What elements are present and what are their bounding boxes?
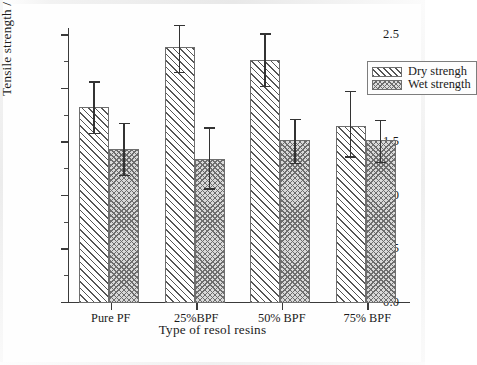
x-tick-label-pure-pf: Pure PF (66, 311, 156, 326)
error-bar-cap-dry-0-lower (89, 133, 100, 134)
y-axis-line (68, 28, 69, 303)
x-tick-major (111, 303, 112, 310)
y-tick-major (61, 302, 68, 303)
error-bar-line-dry-1 (179, 25, 180, 72)
y-tick-minor (64, 222, 68, 223)
error-bar-cap-wet-0-upper (119, 123, 130, 124)
error-bar-line-wet-1 (209, 128, 210, 189)
error-bar-cap-dry-2-lower (260, 86, 271, 87)
error-bar-cap-dry-3-lower (345, 156, 356, 157)
plot-area: 0.00.51.01.52.02.5 Pure PF25%BPF50% BPF7… (68, 28, 410, 303)
y-tick-minor (64, 275, 68, 276)
error-bar-cap-dry-1-lower (174, 72, 185, 73)
x-tick-major (196, 303, 197, 310)
y-tick-minor (64, 115, 68, 116)
bar-wet-3 (366, 140, 396, 303)
error-bar-cap-wet-2-upper (290, 119, 301, 120)
error-bar-line-wet-2 (294, 120, 295, 164)
y-tick-minor (64, 61, 68, 62)
error-bar-line-dry-0 (93, 82, 94, 133)
y-tick-major (61, 195, 68, 196)
error-bar-line-dry-3 (350, 92, 351, 157)
scan-artifact-top (0, 0, 425, 4)
error-bar-cap-wet-3-lower (375, 162, 386, 163)
error-bar-line-wet-0 (123, 124, 124, 175)
error-bar-cap-wet-3-upper (375, 120, 386, 121)
x-tick-major (282, 303, 283, 310)
error-bar-cap-dry-3-upper (345, 91, 356, 92)
legend-label-wet: Wet strength (408, 77, 471, 92)
legend-item-wet: Wet strength (372, 78, 471, 91)
bar-wet-2 (280, 140, 310, 303)
error-bar-cap-dry-0-upper (89, 81, 100, 82)
cross-hatch-swatch-icon (372, 80, 402, 90)
y-tick-minor (64, 168, 68, 169)
y-tick-major (61, 248, 68, 249)
y-axis-title: Tensile strength / MPa (0, 0, 15, 96)
bar-dry-0 (79, 107, 109, 303)
x-tick-label-75-bpf: 75% BPF (322, 311, 412, 326)
y-tick-major (61, 34, 68, 35)
bar-dry-2 (250, 60, 280, 303)
error-bar-cap-dry-2-upper (260, 33, 271, 34)
legend: Dry strengh Wet strength (367, 61, 477, 95)
diagonal-hatch-swatch-icon (372, 67, 402, 77)
error-bar-cap-wet-1-upper (204, 127, 215, 128)
x-tick-major (367, 303, 368, 310)
x-tick-label-50-bpf: 50% BPF (237, 311, 327, 326)
error-bar-cap-wet-1-lower (204, 188, 215, 189)
scan-artifact-right (421, 0, 425, 365)
x-tick-label-25-bpf: 25%BPF (151, 311, 241, 326)
y-tick-major (61, 88, 68, 89)
bar-dry-1 (165, 47, 195, 303)
error-bar-cap-wet-0-lower (119, 175, 130, 176)
error-bar-line-wet-3 (380, 121, 381, 163)
error-bar-line-dry-2 (264, 34, 265, 86)
y-tick-label: 2.5 (383, 27, 399, 42)
error-bar-cap-dry-1-upper (174, 25, 185, 26)
y-tick-major (61, 141, 68, 142)
error-bar-cap-wet-2-lower (290, 163, 301, 164)
